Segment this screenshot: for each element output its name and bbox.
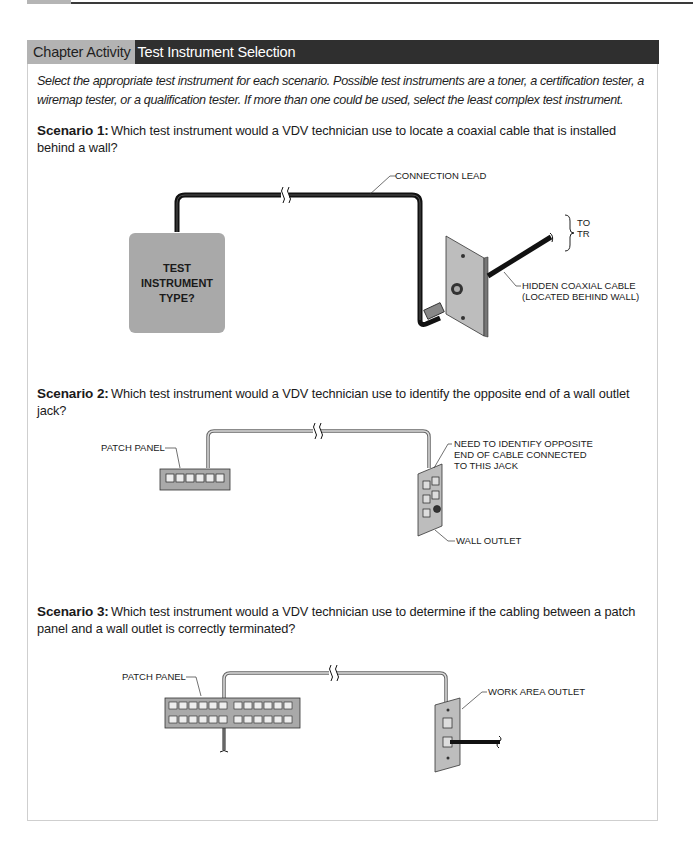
svg-text:(LOCATED BEHIND WALL): (LOCATED BEHIND WALL) — [522, 291, 639, 302]
work-area-outlet-callout: WORK AREA OUTLET — [488, 686, 585, 697]
instrument-text-line-3: TYPE? — [159, 292, 195, 304]
outlet-jack-top — [443, 718, 452, 728]
instrument-text-line-1: TEST — [163, 262, 191, 274]
f-connector-icon — [424, 303, 445, 320]
figure-1: TEST INSTRUMENT TYPE? TO TR CONNECTION L… — [129, 170, 639, 337]
hidden-cable-callout: HIDDEN COAXIAL CABLE — [522, 280, 636, 291]
scenario-figures: TEST INSTRUMENT TYPE? TO TR CONNECTION L… — [0, 0, 693, 860]
svg-text:END OF CABLE CONNECTED: END OF CABLE CONNECTED — [454, 449, 587, 460]
instrument-text-line-2: INSTRUMENT — [141, 277, 213, 289]
connection-lead-callout: CONNECTION LEAD — [395, 170, 486, 181]
patch-panel-callout: PATCH PANEL — [101, 442, 165, 453]
figure-3: PATCH PANEL WORK AREA OUTLET — [122, 665, 585, 772]
identify-jack-callout: NEED TO IDENTIFY OPPOSITE — [454, 438, 593, 449]
brace-icon — [565, 215, 574, 251]
hidden-coax-cable — [488, 237, 551, 276]
svg-text:TO THIS JACK: TO THIS JACK — [454, 460, 519, 471]
svg-text:TR: TR — [577, 228, 590, 239]
svg-text:TO: TO — [577, 217, 590, 228]
patch-panel-callout: PATCH PANEL — [122, 671, 186, 682]
wall-outlet-callout: WALL OUTLET — [456, 535, 521, 546]
coax-wall-plate — [446, 236, 484, 336]
figure-2: PATCH PANEL NEED TO IDENTIFY OPPOSITE EN… — [101, 423, 593, 546]
